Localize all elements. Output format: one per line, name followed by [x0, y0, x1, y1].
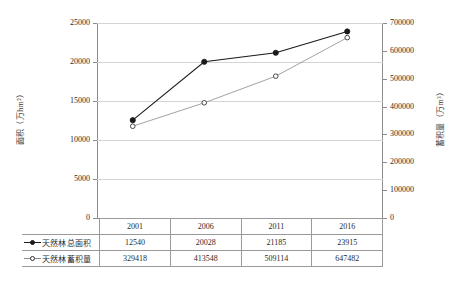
- right-tick-label: 200000: [390, 158, 414, 166]
- table-value-cell: 21185: [241, 235, 312, 251]
- right-tick-mark: [383, 23, 387, 24]
- data-table: 2001200620112016天然林总面积125402002821185239…: [22, 218, 383, 267]
- left-axis-tick-labels: 0500010000150002000025000: [46, 0, 94, 230]
- table-header-row: 2001200620112016: [22, 219, 383, 235]
- data-point-marker: [273, 74, 278, 79]
- table-year-header: 2006: [170, 219, 241, 235]
- right-tick-label: 300000: [390, 130, 414, 138]
- series-line: [133, 31, 348, 120]
- left-tick-label: 25000: [70, 19, 90, 27]
- table-value-cell: 647482: [312, 251, 383, 267]
- right-tick-mark: [383, 51, 387, 52]
- right-axis-tick-labels: 0100000200000300000400000500000600000700…: [388, 0, 436, 230]
- table-value-cell: 413548: [170, 251, 241, 267]
- right-tick-mark: [383, 218, 387, 219]
- left-tick-label: 5000: [74, 175, 90, 183]
- plot-area: [97, 23, 383, 218]
- legend-series-name: 天然林总面积: [42, 239, 91, 248]
- left-tick-mark: [93, 101, 97, 102]
- left-tick-mark: [93, 179, 97, 180]
- filled-circle-marker-icon: [24, 239, 41, 247]
- table-year-header: 2016: [312, 219, 383, 235]
- data-point-marker: [202, 59, 207, 64]
- left-tick-mark: [93, 23, 97, 24]
- legend-dot: [30, 256, 35, 261]
- table-year-header: 2011: [241, 219, 312, 235]
- legend-row-label: 天然林蓄积量: [22, 251, 100, 267]
- data-point-marker: [273, 50, 278, 55]
- right-tick-label: 100000: [390, 186, 414, 194]
- right-tick-mark: [383, 134, 387, 135]
- data-point-marker: [202, 100, 207, 105]
- legend-series-name: 天然林蓄积量: [42, 255, 91, 264]
- table-value-cell: 20028: [170, 235, 241, 251]
- left-tick-mark: [93, 140, 97, 141]
- data-point-marker: [130, 118, 135, 123]
- legend-dot: [30, 240, 35, 245]
- left-tick-label: 10000: [70, 136, 90, 144]
- right-tick-label: 0: [390, 214, 394, 222]
- left-tick-label: 20000: [70, 58, 90, 66]
- right-tick-mark: [383, 190, 387, 191]
- right-tick-label: 400000: [390, 103, 414, 111]
- table-row: 天然林总面积12540200282118523915: [22, 235, 383, 251]
- table-value-cell: 509114: [241, 251, 312, 267]
- right-tick-label: 700000: [390, 19, 414, 27]
- data-point-marker: [345, 35, 350, 40]
- open-circle-marker-icon: [24, 255, 41, 263]
- series-line: [133, 38, 348, 127]
- series-layer: [97, 23, 383, 218]
- right-tick-label: 500000: [390, 75, 414, 83]
- table-value-cell: 23915: [312, 235, 383, 251]
- data-point-marker: [130, 124, 135, 129]
- right-tick-mark: [383, 107, 387, 108]
- table-value-cell: 329418: [100, 251, 171, 267]
- data-point-marker: [345, 29, 350, 34]
- left-tick-label: 15000: [70, 97, 90, 105]
- table-year-header: 2001: [100, 219, 171, 235]
- right-tick-mark: [383, 79, 387, 80]
- table-corner-cell: [22, 219, 100, 235]
- table-value-cell: 12540: [100, 235, 171, 251]
- left-axis-title: 面积（万hm²）: [14, 63, 25, 173]
- right-tick-mark: [383, 162, 387, 163]
- right-tick-label: 600000: [390, 47, 414, 55]
- chart-figure: 面积（万hm²） 蓄积量（万m³） 0500010000150002000025…: [0, 0, 459, 281]
- legend-row-label: 天然林总面积: [22, 235, 100, 251]
- left-tick-mark: [93, 62, 97, 63]
- table-row: 天然林蓄积量329418413548509114647482: [22, 251, 383, 267]
